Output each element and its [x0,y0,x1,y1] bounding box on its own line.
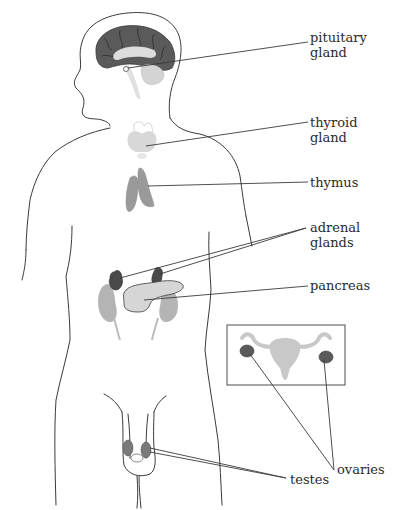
testes-label: testes [290,472,329,487]
pituitary-label-line2: gland [310,45,367,60]
testes-label-line1: testes [290,472,329,487]
pancreas-label: pancreas [310,278,370,293]
thyroid-leader [146,122,308,146]
adrenal-leader-left [120,228,306,278]
ovaries-inset [227,325,345,385]
thymus-label-line1: thymus [310,175,358,190]
testes-leader-2 [150,452,286,478]
thyroid-label-line1: thyroid [310,115,357,130]
adrenal-label-line2: glands [310,235,360,250]
pituitary-gland-shape [124,67,129,72]
endocrine-diagram [0,0,396,510]
thyroid-label: thyroid gland [310,115,357,145]
pituitary-label-line1: pituitary [310,30,367,45]
ovaries-label: ovaries [337,462,385,477]
ovaries-label-line1: ovaries [337,462,385,477]
pancreas-label-line1: pancreas [310,278,370,293]
thyroid-label-line2: gland [310,130,357,145]
leader-lines [120,42,334,478]
adrenal-label-line1: adrenal [310,220,360,235]
thyroid [127,122,156,159]
thymus-leader [148,182,308,186]
thymus [126,168,154,212]
thymus-label: thymus [310,175,358,190]
brain [96,26,175,99]
testes [123,440,151,462]
adrenal-label: adrenal glands [310,220,360,250]
testes-leader-1 [150,448,286,478]
adrenal-leader-right [160,228,306,274]
pituitary-label: pituitary gland [310,30,367,60]
